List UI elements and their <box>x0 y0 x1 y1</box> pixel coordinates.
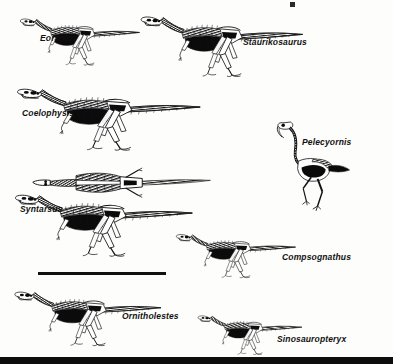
specimen-pelecyornis <box>277 122 349 211</box>
specimen-label-coelophysis: Coelophysis <box>22 108 74 118</box>
specimen-compsognathus <box>176 235 295 278</box>
page-edge-strip <box>0 357 393 364</box>
scale-bar <box>38 272 166 275</box>
specimen-label-compsognathus: Compsognathus <box>282 252 351 262</box>
specimen-label-sinosauropteryx: Sinosauropteryx <box>277 334 346 344</box>
specimen-coelophysis <box>18 89 201 150</box>
specimen-eoraptor <box>20 19 139 65</box>
specimen-label-eoraptor: Eoraptor <box>40 33 77 43</box>
skeletal-reconstruction-plate: Eoraptor Staurikosaurus Coelophysis Pele… <box>0 0 393 364</box>
scan-artifact-fleck <box>290 2 295 7</box>
specimen-label-syntarsus: Syntarsus <box>20 204 62 214</box>
specimen-label-pelecyornis: Pelecyornis <box>302 137 351 147</box>
specimen-label-ornitholestes: Ornitholestes <box>122 311 179 321</box>
specimen-label-staurikosaurus: Staurikosaurus <box>243 37 307 47</box>
skeleton-illustrations <box>0 0 393 364</box>
specimen-syntarsus-dorsal-view <box>33 168 211 197</box>
